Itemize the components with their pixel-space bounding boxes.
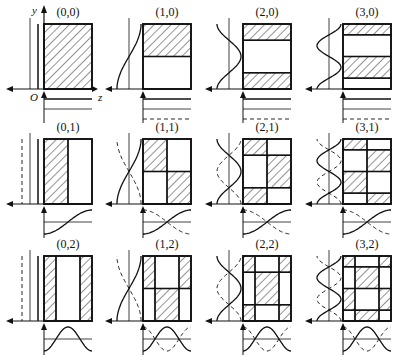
hatched-cell: [343, 139, 367, 150]
mode-panel-0-1: (0,1): [6, 120, 92, 238]
hatched-cell: [44, 256, 56, 321]
hatched-cell: [243, 24, 291, 40]
empty-cell: [243, 155, 267, 188]
hatched-cell: [243, 305, 255, 321]
hatched-cell: [367, 150, 391, 172]
hatched-cell: [343, 256, 355, 267]
y-axis-label: y: [31, 4, 37, 16]
empty-cell: [343, 267, 355, 289]
empty-cell: [279, 272, 291, 305]
arrow-left-icon: [305, 86, 312, 92]
hatched-cell: [367, 193, 391, 204]
hatched-cell: [243, 73, 291, 89]
empty-cell: [68, 139, 92, 204]
arrow-up-icon: [240, 323, 246, 330]
arrow-left-icon: [205, 86, 212, 92]
mode-panel-2-2: (2,2): [205, 237, 291, 355]
empty-cell: [56, 256, 80, 321]
hatched-cell: [343, 172, 367, 194]
empty-cell: [267, 188, 291, 204]
empty-cell: [179, 289, 191, 322]
arrow-left-icon: [6, 86, 13, 92]
arrow-left-icon: [105, 86, 112, 92]
empty-cell: [255, 256, 279, 272]
hatched-cell: [143, 256, 155, 289]
arrow-up-icon: [340, 206, 346, 213]
empty-cell: [379, 310, 391, 321]
mode-label: (0,0): [57, 5, 80, 19]
empty-cell: [343, 35, 391, 57]
empty-cell: [267, 139, 291, 155]
hatched-cell: [243, 256, 255, 272]
hatched-cell: [44, 139, 68, 204]
hatched-cell: [80, 256, 92, 321]
mode-panel-2-0: (2,0): [205, 5, 291, 123]
arrow-up-icon: [340, 91, 346, 98]
mode-label: (1,2): [156, 237, 179, 251]
mode-label: (2,0): [256, 5, 279, 19]
arrow-left-icon: [105, 318, 112, 324]
mode-label: (2,1): [256, 120, 279, 134]
mode-panel-2-1: (2,1): [205, 120, 291, 238]
arrow-up-icon: [140, 206, 146, 213]
mode-label: (1,0): [156, 5, 179, 19]
hatched-cell: [343, 24, 391, 35]
empty-cell: [143, 172, 167, 205]
arrow-up-icon: [140, 91, 146, 98]
arrow-up-icon: [240, 91, 246, 98]
mode-panel-1-0: (1,0): [105, 5, 191, 123]
hatched-cell: [143, 139, 167, 172]
arrow-up-icon: [140, 323, 146, 330]
hatched-cell: [155, 289, 179, 322]
mode-panel-1-2: (1,2): [105, 237, 191, 355]
empty-cell: [243, 272, 255, 305]
arrow-left-icon: [305, 318, 312, 324]
mode-label: (3,2): [356, 237, 379, 251]
arrow-left-icon: [105, 201, 112, 207]
empty-cell: [255, 305, 279, 321]
hatched-cell: [143, 24, 191, 57]
mode-label: (3,1): [356, 120, 379, 134]
hatched-cell: [279, 305, 291, 321]
hatched-cell: [167, 172, 191, 205]
hatched-cell: [44, 24, 92, 89]
hatched-cell: [355, 310, 379, 321]
empty-cell: [343, 150, 367, 172]
arrow-up-icon: [41, 91, 47, 98]
hatched-cell: [179, 256, 191, 289]
mode-label: (3,0): [356, 5, 379, 19]
hatched-cell: [343, 57, 391, 79]
hatched-cell: [243, 188, 267, 204]
empty-cell: [155, 256, 179, 289]
empty-cell: [367, 139, 391, 150]
empty-cell: [143, 289, 155, 322]
hatched-cell: [255, 272, 279, 305]
empty-cell: [243, 40, 291, 73]
mode-panel-3-0: (3,0): [305, 5, 391, 123]
mode-panel-0-0: (0,0)yOz: [6, 4, 103, 123]
hatched-cell: [243, 139, 267, 155]
arrow-left-icon: [205, 201, 212, 207]
hatched-cell: [343, 289, 355, 311]
hatched-cell: [267, 155, 291, 188]
arrow-up-icon: [340, 323, 346, 330]
hatched-cell: [355, 267, 379, 289]
hatched-cell: [279, 256, 291, 272]
arrow-up-icon: [41, 5, 47, 13]
mode-label: (0,2): [57, 237, 80, 251]
mode-label: (2,2): [256, 237, 279, 251]
empty-cell: [379, 267, 391, 289]
z-axis-label: z: [97, 91, 103, 103]
arrow-left-icon: [205, 318, 212, 324]
mode-panel-0-2: (0,2): [6, 237, 92, 355]
arrow-up-icon: [240, 206, 246, 213]
hatched-cell: [379, 256, 391, 267]
empty-cell: [355, 289, 379, 311]
mode-label: (0,1): [57, 120, 80, 134]
mode-diagram: (0,0)yOz(1,0)(2,0)(3,0)(0,1)(1,1)(2,1)(3…: [0, 0, 398, 363]
mode-panel-3-2: (3,2): [305, 237, 391, 355]
empty-cell: [343, 193, 367, 204]
arrow-up-icon: [41, 206, 47, 213]
empty-cell: [143, 57, 191, 90]
empty-cell: [367, 172, 391, 194]
